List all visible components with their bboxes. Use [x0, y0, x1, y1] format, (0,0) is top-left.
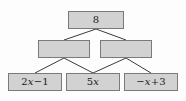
pyramid-node-leaf-1[interactable]: 2x−1 [8, 73, 62, 91]
node-label-leaf-2: 5x [87, 77, 99, 87]
edge-root-to-mid-right [96, 29, 126, 40]
edge-mid-right-to-leaf-2 [93, 58, 126, 73]
pyramid-node-leaf-2[interactable]: 5x [66, 73, 120, 91]
edge-root-to-mid-left [64, 29, 96, 40]
edge-mid-left-to-leaf-1 [35, 58, 64, 73]
pyramid-diagram: 8 2x−1 5x −x+3 [0, 0, 186, 101]
pyramid-node-mid-left-blank[interactable] [38, 40, 90, 58]
node-label-root: 8 [93, 15, 100, 25]
node-label-leaf-1: 2x−1 [21, 77, 49, 87]
pyramid-node-leaf-3[interactable]: −x+3 [124, 73, 178, 91]
node-label-leaf-3: −x+3 [136, 77, 166, 87]
pyramid-node-root[interactable]: 8 [68, 11, 124, 29]
edge-mid-right-to-leaf-3 [126, 58, 151, 73]
pyramid-node-mid-right-blank[interactable] [100, 40, 152, 58]
edge-mid-left-to-leaf-2 [64, 58, 93, 73]
